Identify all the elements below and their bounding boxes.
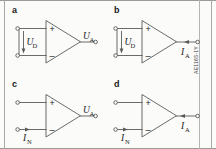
circuit-panel-d: d I N I A <box>108 75 208 149</box>
opamp-minus-c: – <box>50 125 55 135</box>
terminal-plus-c <box>16 101 20 105</box>
label-input-sub-a: D <box>33 42 38 49</box>
terminal-plus-d <box>114 101 118 105</box>
panel-a-schematic: U D U A + – <box>6 1 106 75</box>
opamp-plus-a: + <box>50 24 55 34</box>
terminal-output-d <box>196 114 200 118</box>
terminal-output-c <box>94 114 98 118</box>
label-input-sub-c: N <box>27 138 32 145</box>
label-output-sub-b: A <box>185 52 190 59</box>
terminal-minus-a <box>16 54 20 58</box>
circuit-panel-c: c I N U A + – <box>6 75 106 149</box>
circuit-panel-a: a <box>6 1 106 75</box>
terminal-plus-b <box>114 27 118 31</box>
label-input-sub-b: D <box>131 42 136 49</box>
frame-border-left <box>4 0 5 149</box>
terminal-output-a <box>94 40 98 44</box>
frame-border-right <box>211 0 212 149</box>
voltage-arrow-a <box>22 31 26 54</box>
current-arrow-output-d <box>180 114 185 118</box>
current-arrow-c <box>25 128 30 132</box>
terminal-plus-a <box>16 27 20 31</box>
figure-catalog-code: AE1165-1Y <box>193 14 199 74</box>
opamp-plus-d: + <box>146 98 151 108</box>
current-arrow-input-d <box>123 128 128 132</box>
opamp-plus-b: + <box>146 24 151 34</box>
terminal-minus-c <box>16 128 20 132</box>
opamp-minus-d: – <box>146 125 151 135</box>
label-output-sub-d: A <box>185 126 190 133</box>
terminal-minus-b <box>114 54 118 58</box>
panel-d-schematic: I N I A + – <box>108 75 208 149</box>
label-output-sub-a: A <box>90 36 95 43</box>
opamp-minus-a: – <box>50 51 55 61</box>
opamp-minus-b: – <box>146 51 151 61</box>
figure-canvas: a <box>0 0 216 149</box>
label-output-sub-c: A <box>90 110 95 117</box>
current-arrow-b <box>184 40 189 44</box>
terminal-minus-d <box>114 128 118 132</box>
panel-c-schematic: I N U A + – <box>6 75 106 149</box>
voltage-arrow-b <box>120 31 124 54</box>
label-input-sub-d: N <box>125 138 130 145</box>
opamp-plus-c: + <box>50 98 55 108</box>
